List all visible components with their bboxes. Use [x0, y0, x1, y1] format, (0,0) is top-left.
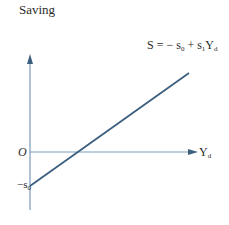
x-axis-label-main: Y: [199, 145, 208, 159]
saving-equation: S = − s0 + s1Yd: [147, 39, 218, 53]
x-axis-label-sub: d: [208, 152, 212, 160]
saving-function-diagram: [0, 0, 229, 225]
saving-function-line: [30, 73, 189, 186]
origin-label: O: [18, 146, 27, 158]
y-axis-arrowhead: [27, 54, 33, 64]
eq-sub3: d: [214, 45, 218, 53]
eq-part2: + s: [184, 38, 201, 52]
intercept-label-sub: 0: [27, 184, 31, 192]
x-axis-label: Yd: [199, 146, 211, 160]
eq-part3: Y: [205, 38, 214, 52]
x-axis-arrowhead: [188, 149, 198, 155]
eq-part1: S = − s: [147, 38, 181, 52]
intercept-label: −s0: [17, 179, 31, 192]
y-axis-label: Saving: [19, 3, 55, 16]
intercept-label-main: −s: [17, 178, 27, 190]
